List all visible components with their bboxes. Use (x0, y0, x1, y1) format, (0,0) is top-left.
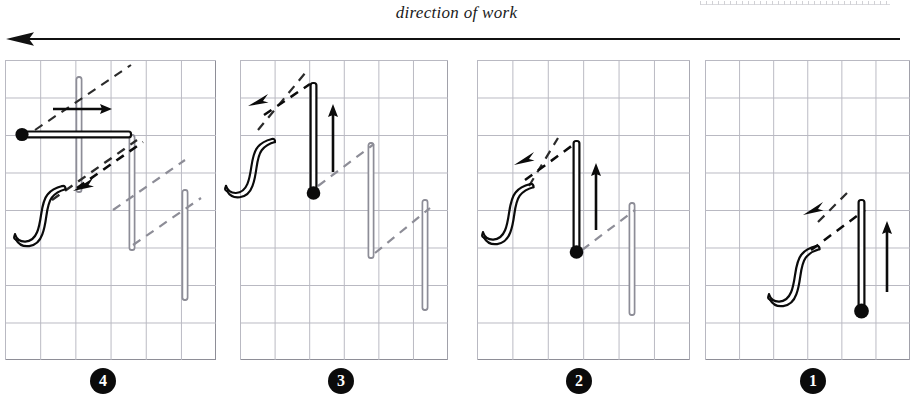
active-pile-horizontal (15, 128, 131, 141)
advance-dashed-arrow (248, 84, 310, 115)
step-badge-3: 3 (328, 368, 354, 394)
movement-solid-arrow (328, 104, 338, 172)
installed-pile (422, 200, 427, 310)
dashed-guide-line (35, 65, 131, 130)
installed-pile (368, 143, 373, 258)
dashed-guide-line (258, 72, 306, 130)
installed-pile (629, 203, 634, 315)
advance-dashed-arrow (514, 142, 577, 180)
movement-solid-arrow (591, 163, 601, 230)
soil-squiggle (482, 184, 533, 244)
dashed-guide-line (818, 192, 848, 222)
dashed-guide-line (582, 210, 635, 250)
pile-toe-dot (570, 245, 584, 259)
pile-toe-dot (307, 186, 321, 200)
long-left-arrow-icon (0, 28, 913, 50)
panel-4-artwork (5, 60, 216, 360)
step-badge-2: 2 (566, 368, 592, 394)
page-title: direction of work (0, 3, 913, 23)
step-badge-1: 1 (800, 368, 826, 394)
panel-3-artwork (240, 60, 448, 360)
panel-1-artwork (705, 60, 910, 360)
panel-step-3 (240, 60, 448, 360)
soil-squiggle (225, 139, 275, 197)
advance-dashed-arrow (803, 202, 865, 250)
dashed-guide-line (529, 138, 558, 186)
step-badge-4: 4 (90, 368, 116, 394)
pile-toe-dot (15, 128, 28, 141)
active-pile-vertical (307, 83, 321, 200)
soil-squiggle (768, 246, 819, 306)
panel-step-1 (705, 60, 910, 360)
diagram-canvas: direction of work (0, 0, 913, 402)
pile-toe-dot (854, 304, 869, 319)
dashed-guide-line (52, 140, 137, 200)
panel-step-4 (5, 60, 216, 360)
panel-step-2 (477, 60, 690, 360)
movement-solid-arrow (882, 221, 892, 292)
panel-2-artwork (477, 60, 690, 360)
active-pile-vertical (570, 141, 584, 259)
